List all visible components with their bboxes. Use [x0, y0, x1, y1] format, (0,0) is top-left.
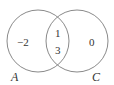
c-only-value: 0 — [89, 37, 95, 48]
venn-diagram: −2 1 3 0 A C — [0, 0, 114, 85]
a-only-value: −2 — [17, 37, 29, 48]
set-c-label: C — [92, 71, 100, 83]
intersection-value-1: 1 — [55, 28, 61, 39]
set-a-label: A — [11, 71, 18, 83]
set-c-circle — [46, 10, 108, 72]
intersection-value-2: 3 — [55, 45, 61, 56]
